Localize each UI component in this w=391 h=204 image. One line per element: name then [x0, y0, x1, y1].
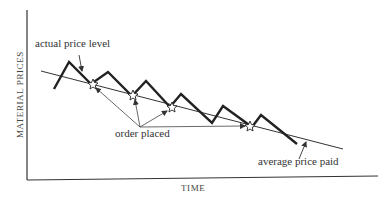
y-axis-label: MATERIAL PRICES: [15, 51, 25, 138]
actual-price-pointer: [79, 55, 82, 71]
x-axis-label: TIME: [181, 183, 205, 193]
order-point-markers: [88, 79, 255, 131]
x-axis: [27, 176, 378, 180]
average-price-line: [41, 71, 343, 149]
average-price-paid-label: average price paid: [258, 155, 339, 167]
order-placed-label: order placed: [115, 127, 170, 139]
price-chart: [0, 0, 391, 204]
actual-price-line: [54, 62, 297, 144]
actual-price-level-label: actual price level: [35, 37, 110, 49]
